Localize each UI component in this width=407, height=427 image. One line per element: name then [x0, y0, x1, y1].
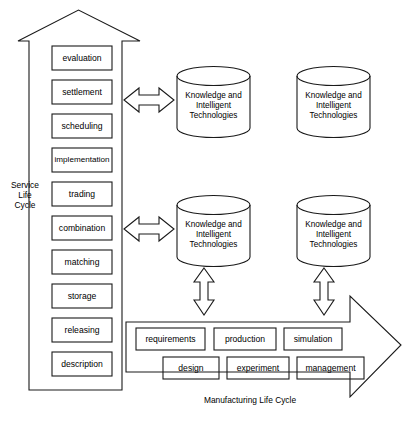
service-stage-box [52, 114, 112, 138]
manufacturing-stage-box [163, 357, 219, 379]
repository-cylinder [177, 196, 250, 267]
service-stage-box [52, 182, 112, 206]
service-stage-box [52, 250, 112, 274]
service-life-cycle-arrow-outline [18, 10, 140, 390]
service-stage-box [52, 284, 112, 308]
double-arrow-vertical [194, 268, 214, 315]
manufacturing-stage-box [136, 328, 205, 350]
service-stage-box [52, 318, 112, 342]
service-stage-box [52, 80, 112, 104]
service-stage-box [52, 352, 112, 376]
manufacturing-stage-box [284, 328, 342, 350]
diagram-vector-layer [0, 0, 407, 427]
manufacturing-stage-box [214, 328, 276, 350]
double-arrow-vertical [314, 268, 334, 315]
manufacturing-stage-box [227, 357, 289, 379]
manufacturing-life-cycle-arrow-outline [126, 296, 401, 397]
double-arrow-horizontal [124, 88, 174, 112]
service-stage-box [52, 148, 112, 172]
double-arrow-horizontal [124, 217, 174, 241]
manufacturing-stage-box [297, 357, 364, 379]
diagram-root: Service Life Cycle evaluation settlement… [0, 0, 407, 427]
repository-cylinder [297, 196, 370, 267]
repository-cylinder [297, 67, 370, 138]
service-stage-box [52, 216, 112, 240]
repository-cylinder [177, 67, 250, 138]
service-stage-box [52, 46, 112, 70]
